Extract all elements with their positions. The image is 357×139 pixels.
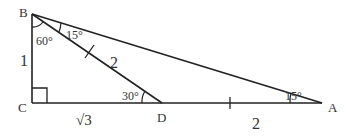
angle-label-A-15: 15° [285, 89, 302, 103]
length-label-BC: 1 [20, 52, 28, 69]
point-label-B: B [19, 5, 28, 20]
point-label-D: D [157, 110, 166, 125]
length-label-DA: 2 [252, 115, 260, 132]
angle-label-B-15: 15° [66, 28, 83, 42]
triangle-diagram: B C D A 60° 15° 30° 15° 1 √3 2 2 [0, 0, 357, 139]
length-label-BD: 2 [110, 54, 118, 71]
length-label-CD: √3 [76, 112, 92, 128]
angle-arc-D [142, 91, 145, 103]
angle-arc-B [32, 22, 43, 27]
angle-label-B-60: 60° [36, 34, 53, 48]
diagram-canvas: B C D A 60° 15° 30° 15° 1 √3 2 2 [0, 0, 357, 139]
point-label-A: A [328, 100, 338, 115]
angle-arc-B-15 [59, 23, 61, 32]
point-label-C: C [18, 100, 27, 115]
right-angle-mark [32, 88, 47, 103]
angle-label-D-30: 30° [122, 89, 139, 103]
segment-BD [32, 14, 162, 103]
